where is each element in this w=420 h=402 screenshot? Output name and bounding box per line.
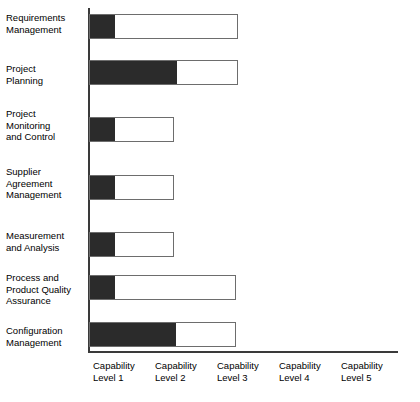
bar-segment-remaining [115,15,237,38]
bar-segment-achieved [90,233,115,256]
bar-segment-remaining [177,61,237,84]
bar-segment-achieved [90,276,115,299]
bar-project-monitoring-and-control [89,117,174,142]
category-label-configuration-management: Configuration Management [6,325,86,348]
bar-segment-achieved [90,15,115,38]
x-axis-line [88,351,398,353]
bar-segment-remaining [115,176,173,199]
x-tick-label-capability-level-2: Capability Level 2 [155,360,217,383]
bar-project-planning [89,60,238,85]
category-label-process-and-product-quality-assurance: Process and Product Quality Assurance [6,272,86,307]
category-label-project-monitoring-and-control: Project Monitoring and Control [6,108,86,143]
bar-segment-remaining [176,323,235,346]
bar-segment-remaining [115,233,173,256]
category-label-measurement-and-analysis: Measurement and Analysis [6,230,86,253]
bar-segment-remaining [115,118,173,141]
bar-requirements-management [89,14,238,39]
category-label-project-planning: Project Planning [6,63,86,86]
bar-segment-achieved [90,118,115,141]
bar-segment-achieved [90,176,115,199]
bar-segment-achieved [90,323,176,346]
bar-configuration-management [89,322,236,347]
x-tick-label-capability-level-5: Capability Level 5 [341,360,403,383]
x-tick-label-capability-level-3: Capability Level 3 [217,360,279,383]
bar-segment-achieved [90,61,177,84]
bar-measurement-and-analysis [89,232,174,257]
bar-process-and-product-quality-assurance [89,275,236,300]
bar-segment-remaining [115,276,235,299]
bar-supplier-agreement-management [89,175,174,200]
x-tick-label-capability-level-4: Capability Level 4 [279,360,341,383]
capability-level-chart: Requirements Management Project Planning… [0,0,420,402]
category-label-supplier-agreement-management: Supplier Agreement Management [6,166,86,201]
category-label-requirements-management: Requirements Management [6,12,86,35]
x-tick-label-capability-level-1: Capability Level 1 [93,360,155,383]
